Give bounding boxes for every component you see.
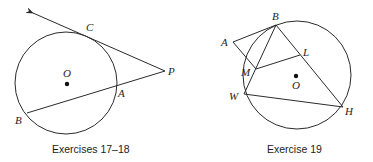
label-c: C (86, 21, 94, 33)
label-w: W (229, 90, 239, 102)
label-h: H (344, 105, 354, 117)
segment-bh (276, 25, 343, 107)
center-point-o (65, 82, 69, 86)
label-o: O (292, 79, 300, 91)
caption-exercises-17-18: Exercises 17–18 (52, 143, 130, 155)
geometry-diagrams: C O P A B Exercises 17–18 A B L M W O H … (0, 0, 373, 162)
label-m: M (240, 66, 251, 78)
figure-exercises-17-18: C O P A B Exercises 17–18 (15, 13, 175, 155)
segment-wh (244, 94, 343, 107)
caption-exercise-19: Exercise 19 (267, 143, 322, 155)
label-b: B (272, 10, 279, 22)
label-o: O (63, 67, 71, 79)
segment-am (233, 42, 256, 69)
figure-exercise-19: A B L M W O H Exercise 19 (220, 10, 354, 155)
tangent-ray-pc (33, 13, 165, 71)
label-a: A (117, 87, 125, 99)
secant-pb (27, 71, 165, 113)
label-p: P (167, 65, 175, 77)
center-point-o (294, 74, 298, 78)
label-a: A (220, 36, 228, 48)
label-l: L (302, 46, 309, 58)
segment-ml (256, 55, 300, 69)
label-b: B (15, 114, 22, 126)
